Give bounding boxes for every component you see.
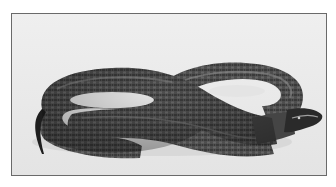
snake-eye bbox=[298, 117, 301, 120]
photo-frame: Black-and-white photograph of a coiled s… bbox=[11, 13, 327, 176]
snake-photo bbox=[12, 14, 326, 175]
